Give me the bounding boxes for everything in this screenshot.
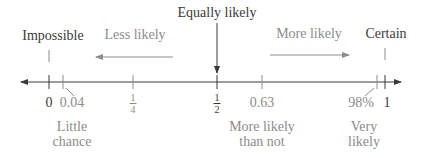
very-likely-line-2: likely [348, 134, 380, 149]
tick-label-0.63: 0.63 [250, 95, 275, 110]
tick-label-98-percent: 98% [348, 95, 374, 110]
little-chance-line-1: Little [53, 119, 92, 134]
very-likely-line-1: Very [348, 119, 380, 134]
little-chance-label: Little chance [53, 119, 92, 149]
tick-label-one-half: 1 2 [214, 93, 221, 114]
tick-label-0: 0 [46, 95, 53, 110]
impossible-label: Impossible [22, 28, 83, 43]
fraction-denominator: 2 [214, 105, 221, 114]
fraction-denominator: 4 [130, 105, 137, 114]
less-likely-label: Less likely [104, 27, 165, 42]
more-likely-label: More likely [276, 26, 342, 41]
very-likely-label: Very likely [348, 119, 380, 149]
equally-likely-label: Equally likely [178, 5, 257, 20]
little-chance-line-2: chance [53, 134, 92, 149]
tick-label-one-quarter: 1 4 [130, 93, 137, 114]
tick-label-1: 1 [384, 95, 391, 110]
more-likely-than-not-line-2: than not [229, 134, 295, 149]
more-likely-than-not-line-1: More likely [229, 119, 295, 134]
certain-label: Certain [365, 26, 406, 41]
fraction-numerator: 1 [130, 93, 137, 102]
fraction-numerator: 1 [214, 93, 221, 102]
tick-label-0.04: 0.04 [60, 95, 85, 110]
more-likely-than-not-label: More likely than not [229, 119, 295, 149]
